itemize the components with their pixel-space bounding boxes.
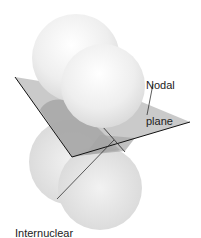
internuclear-axis-label: Internuclear axis <box>15 203 73 238</box>
nodal-plane-label-line2: plane <box>146 115 175 127</box>
nodal-plane-label-line1: Nodal <box>146 79 175 91</box>
nodal-plane-label: Nodal plane <box>146 55 175 139</box>
internuclear-axis-label-line1: Internuclear <box>15 227 73 238</box>
